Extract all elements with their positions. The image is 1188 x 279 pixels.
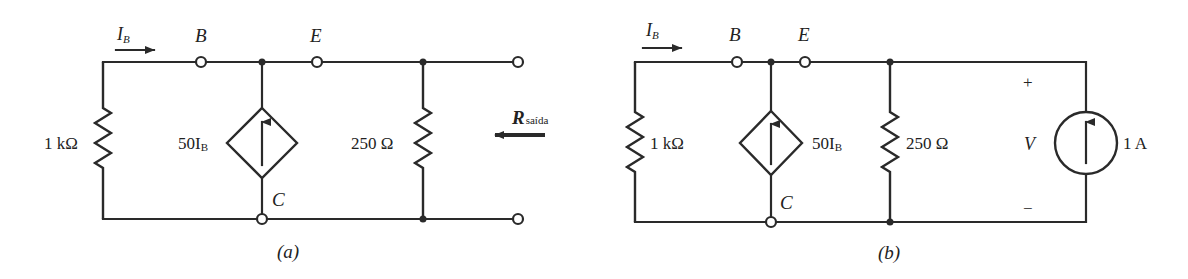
resistor-250-label-b: 250 Ω	[906, 134, 948, 153]
junction-dot	[420, 216, 427, 223]
terminal-e-a	[312, 57, 322, 67]
node-label-c-b: C	[780, 192, 793, 213]
junction-dot	[887, 59, 894, 66]
dependent-source-label-a: 50IB	[178, 134, 208, 153]
terminal-b-a	[196, 57, 206, 67]
node-label-b-a: B	[195, 25, 207, 46]
resistor-250-b	[882, 62, 898, 222]
resistor-1k-a	[95, 62, 111, 219]
voltage-plus-sign: +	[1023, 73, 1033, 92]
dependent-source-label-b: 50IB	[812, 134, 842, 153]
output-terminal-bottom-a	[513, 214, 523, 224]
node-label-e-b: E	[797, 24, 810, 45]
top-wire-b	[635, 62, 1086, 112]
terminal-c-a	[257, 214, 267, 224]
terminal-c-b	[766, 217, 776, 227]
current-label-b: IB	[645, 20, 659, 41]
current-source-label: 1 A	[1123, 134, 1148, 153]
voltage-minus-sign: −	[1023, 199, 1033, 218]
junction-dot	[768, 59, 775, 66]
resistor-1k-label-a: 1 kΩ	[44, 134, 78, 153]
junction-dot	[420, 59, 427, 66]
bottom-wire-b	[635, 174, 1086, 222]
terminal-b-b	[732, 57, 742, 67]
resistor-1k-label-b: 1 kΩ	[650, 134, 684, 153]
output-terminal-top-a	[513, 57, 523, 67]
caption-a: (a)	[277, 241, 299, 263]
node-label-e-a: E	[309, 25, 322, 46]
resistor-1k-b	[627, 62, 643, 222]
current-label-a: IB	[116, 24, 130, 45]
output-resistance-label: Rsaída	[511, 107, 548, 128]
voltage-label: V	[1024, 134, 1037, 154]
caption-b: (b)	[878, 242, 900, 264]
node-label-b-b: B	[729, 24, 741, 45]
junction-dot	[259, 59, 266, 66]
circuit-figure: IB B E C 1 kΩ 50IB 250 Ω Rsaída (a)	[0, 0, 1188, 279]
resistor-250-a	[415, 62, 431, 219]
resistor-250-label-a: 250 Ω	[351, 134, 393, 153]
circuit-b: IB B E C 1 kΩ 50IB 250 Ω V + − 1 A (b)	[627, 20, 1148, 264]
junction-dot	[887, 219, 894, 226]
terminal-e-b	[800, 57, 810, 67]
circuit-a: IB B E C 1 kΩ 50IB 250 Ω Rsaída (a)	[44, 24, 548, 263]
node-label-c-a: C	[272, 189, 285, 210]
